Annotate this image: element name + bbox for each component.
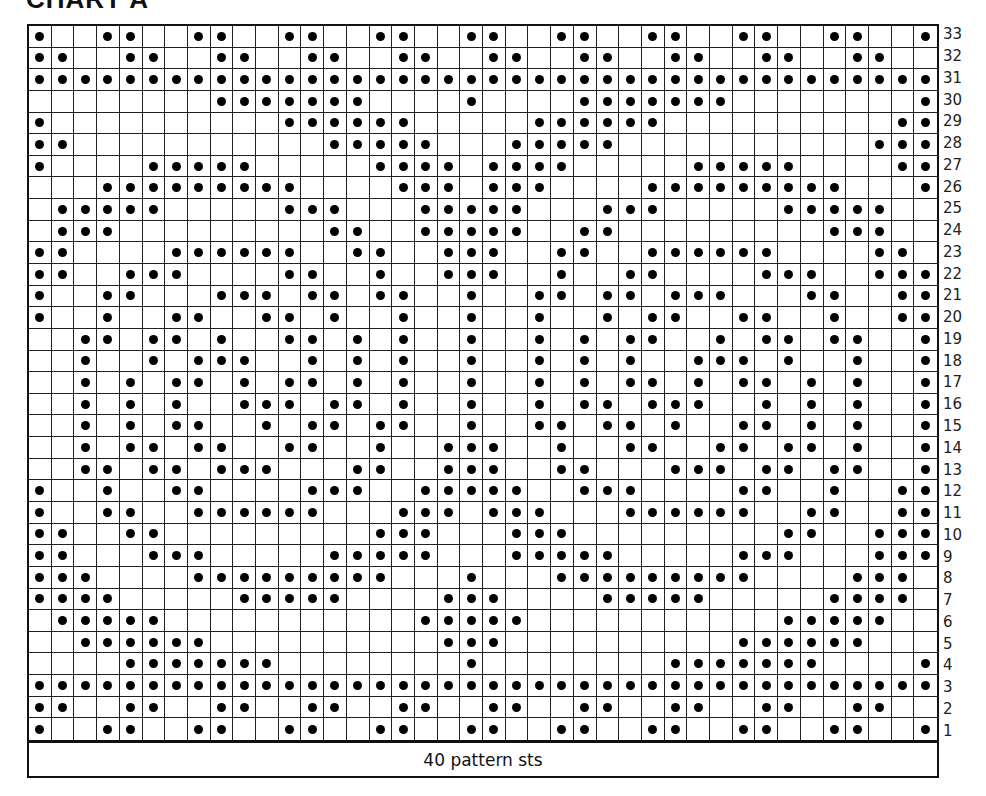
- chart-cell-dot-icon: [869, 221, 892, 243]
- chart-cell-empty: [347, 610, 370, 632]
- chart-cell-empty: [869, 113, 892, 135]
- chart-cell-empty: [755, 221, 778, 243]
- chart-cell-empty: [324, 329, 347, 351]
- row-number-label: 22: [943, 263, 983, 285]
- chart-cell-dot-icon: [687, 372, 710, 394]
- chart-cell-empty: [52, 718, 75, 740]
- chart-cell-empty: [52, 502, 75, 524]
- chart-cell-dot-icon: [665, 675, 688, 697]
- chart-cell-empty: [120, 567, 143, 589]
- chart-cell-empty: [733, 134, 756, 156]
- chart-cell-dot-icon: [279, 264, 302, 286]
- chart-cell-dot-icon: [506, 480, 529, 502]
- chart-cell-empty: [74, 134, 97, 156]
- chart-cell-empty: [256, 48, 279, 70]
- chart-cell-dot-icon: [279, 675, 302, 697]
- chart-cell-empty: [687, 524, 710, 546]
- chart-cell-dot-icon: [460, 415, 483, 437]
- row-number-label: 12: [943, 481, 983, 503]
- chart-cell-empty: [914, 48, 937, 70]
- chart-cell-dot-icon: [551, 26, 574, 48]
- chart-cell-dot-icon: [846, 221, 869, 243]
- chart-cell-empty: [415, 286, 438, 308]
- chart-cell-empty: [846, 286, 869, 308]
- chart-cell-empty: [52, 91, 75, 113]
- chart-cell-empty: [778, 415, 801, 437]
- chart-cell-empty: [528, 480, 551, 502]
- chart-cell-dot-icon: [914, 177, 937, 199]
- chart-cell-dot-icon: [687, 697, 710, 719]
- chart-cell-empty: [324, 156, 347, 178]
- chart-cell-empty: [188, 48, 211, 70]
- chart-cell-empty: [824, 264, 847, 286]
- chart-cell-empty: [347, 437, 370, 459]
- chart-cell-empty: [619, 545, 642, 567]
- chart-cell-empty: [460, 48, 483, 70]
- chart-cell-dot-icon: [188, 632, 211, 654]
- chart-cell-empty: [551, 307, 574, 329]
- chart-cell-empty: [460, 177, 483, 199]
- chart-cell-dot-icon: [528, 351, 551, 373]
- chart-cell-empty: [143, 307, 166, 329]
- chart-cell-empty: [438, 394, 461, 416]
- chart-cell-dot-icon: [74, 589, 97, 611]
- chart-cell-dot-icon: [506, 524, 529, 546]
- chart-cell-empty: [733, 524, 756, 546]
- chart-cell-empty: [619, 48, 642, 70]
- chart-cell-dot-icon: [438, 177, 461, 199]
- chart-cell-dot-icon: [120, 697, 143, 719]
- chart-cell-empty: [551, 351, 574, 373]
- chart-cell-dot-icon: [233, 589, 256, 611]
- chart-cell-empty: [597, 632, 620, 654]
- chart-cell-dot-icon: [211, 69, 234, 91]
- chart-cell-empty: [438, 697, 461, 719]
- chart-cell-dot-icon: [869, 524, 892, 546]
- chart-cell-empty: [846, 134, 869, 156]
- chart-cell-dot-icon: [460, 91, 483, 113]
- chart-cell-empty: [279, 632, 302, 654]
- chart-cell-dot-icon: [914, 286, 937, 308]
- chart-cell-dot-icon: [801, 653, 824, 675]
- chart-cell-dot-icon: [869, 264, 892, 286]
- chart-cell-empty: [710, 718, 733, 740]
- row-number-label: 26: [943, 176, 983, 198]
- row-number-label: 21: [943, 285, 983, 307]
- chart-cell-dot-icon: [846, 437, 869, 459]
- chart-cell-dot-icon: [97, 199, 120, 221]
- chart-cell-empty: [256, 351, 279, 373]
- chart-cell-empty: [642, 48, 665, 70]
- chart-cell-empty: [415, 351, 438, 373]
- chart-cell-empty: [52, 351, 75, 373]
- chart-cell-empty: [370, 502, 393, 524]
- chart-cell-empty: [438, 329, 461, 351]
- chart-cell-empty: [347, 26, 370, 48]
- chart-cell-dot-icon: [665, 242, 688, 264]
- chart-cell-dot-icon: [120, 199, 143, 221]
- chart-cell-empty: [233, 415, 256, 437]
- chart-cell-empty: [211, 307, 234, 329]
- chart-cell-empty: [370, 372, 393, 394]
- chart-cell-dot-icon: [914, 653, 937, 675]
- chart-cell-dot-icon: [755, 264, 778, 286]
- chart-cell-empty: [120, 91, 143, 113]
- chart-cell-dot-icon: [801, 437, 824, 459]
- chart-cell-empty: [642, 632, 665, 654]
- chart-cell-dot-icon: [846, 632, 869, 654]
- chart-cell-dot-icon: [392, 26, 415, 48]
- chart-cell-empty: [665, 524, 688, 546]
- chart-cell-dot-icon: [74, 69, 97, 91]
- chart-cell-dot-icon: [460, 610, 483, 632]
- chart-cell-empty: [392, 437, 415, 459]
- chart-cell-dot-icon: [733, 567, 756, 589]
- chart-cell-dot-icon: [665, 697, 688, 719]
- chart-cell-dot-icon: [279, 242, 302, 264]
- chart-cell-empty: [642, 524, 665, 546]
- chart-cell-empty: [528, 91, 551, 113]
- chart-cell-dot-icon: [143, 459, 166, 481]
- chart-cell-empty: [279, 48, 302, 70]
- chart-cell-dot-icon: [415, 69, 438, 91]
- chart-cell-empty: [483, 545, 506, 567]
- chart-cell-empty: [165, 134, 188, 156]
- chart-cell-dot-icon: [551, 524, 574, 546]
- chart-cell-dot-icon: [506, 610, 529, 632]
